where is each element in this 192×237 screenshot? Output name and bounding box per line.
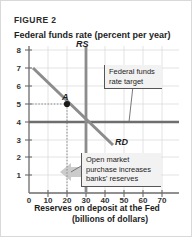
y-tick-label-3: 3	[9, 136, 21, 145]
figure-container: FIGURE 2 Federal funds rate (percent per…	[0, 0, 192, 237]
annotation-target-line1: Federal funds	[109, 67, 159, 77]
demand-curve-rd	[33, 68, 113, 145]
x-axis-title-line2: (billions of dollars)	[1, 214, 192, 224]
annotation-target: Federal funds rate target	[104, 65, 162, 89]
y-tick-label-7: 7	[9, 64, 21, 73]
annotation-omo-line1: Open market	[86, 155, 158, 165]
y-tick-label-5: 5	[9, 100, 21, 109]
y-tick-label-1: 1	[9, 171, 21, 180]
point-a-label: A	[62, 92, 69, 102]
annotation-omo-line3: banks' reserves	[86, 174, 158, 184]
y-tick-label-6: 6	[9, 82, 21, 91]
y-tick-label-8: 8	[9, 46, 21, 55]
demand-curve-label: RD	[115, 137, 128, 147]
y-tick-label-4: 4	[9, 118, 21, 127]
annotation-target-line2: rate target	[109, 77, 159, 87]
x-axis-title-line1: Reserves on deposit at the Fed	[1, 203, 192, 213]
supply-curve-label: RS	[76, 39, 89, 49]
y-tick-label-2: 2	[9, 153, 21, 162]
annotation-omo-line2: purchase increases	[86, 165, 158, 175]
annotation-open-market: Open market purchase increases banks' re…	[81, 153, 161, 187]
